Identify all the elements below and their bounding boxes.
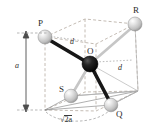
height-label-a: a <box>15 62 19 70</box>
diagonal-label-sqrt2a: √2a <box>60 115 72 124</box>
bond-length-label-d-top: d <box>70 38 74 46</box>
atom-label-O: O <box>87 47 94 56</box>
bonds-dark <box>46 38 111 104</box>
bond-length-label-d-right: d <box>118 64 122 72</box>
dimension-arrow-bottom <box>23 105 29 112</box>
atom-label-R: R <box>133 6 139 15</box>
aux-line-R-rightvertex <box>135 24 138 91</box>
sqrt2a-arc <box>46 110 110 121</box>
atom-label-P: P <box>38 19 43 28</box>
d-leader-right <box>96 60 133 62</box>
diagonal-dimension-arc <box>46 110 110 121</box>
atom-sphere-O <box>82 56 98 72</box>
figure-canvas <box>0 0 151 130</box>
bond-O-R <box>90 25 135 64</box>
atom-sphere-R <box>128 17 142 31</box>
cube-top-face <box>45 19 135 44</box>
atom-sphere-S <box>64 89 78 103</box>
atom-label-S: S <box>59 85 64 94</box>
atom-sphere-P <box>38 30 52 44</box>
dimension-arrow-top <box>23 31 29 38</box>
atom-label-Q: Q <box>116 110 123 119</box>
tetrahedron-in-cube-figure: P R O S Q d d a √2a <box>0 0 151 130</box>
radical-operand: 2a <box>64 115 72 124</box>
